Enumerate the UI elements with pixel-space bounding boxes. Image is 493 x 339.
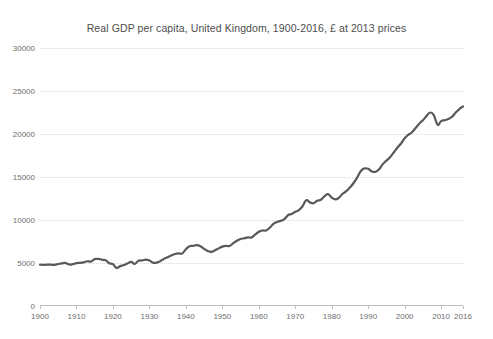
x-tick-label: 1940 (177, 312, 195, 321)
y-tick-label: 20000 (13, 130, 35, 139)
x-tick-mark (222, 306, 223, 309)
x-tick-label: 1910 (68, 312, 86, 321)
x-tick-mark (405, 306, 406, 309)
x-tick-mark (295, 306, 296, 309)
x-tick-mark (441, 306, 442, 309)
chart-title: Real GDP per capita, United Kingdom, 190… (0, 22, 493, 34)
y-tick-label: 30000 (13, 44, 35, 53)
x-tick-label: 1920 (104, 312, 122, 321)
series-path-real-gdp-per-capita (40, 106, 463, 267)
x-tick-label: 1970 (286, 312, 304, 321)
x-tick-mark (463, 306, 464, 309)
x-tick-mark (40, 306, 41, 309)
x-tick-mark (149, 306, 150, 309)
x-tick-mark (113, 306, 114, 309)
x-tick-label: 1900 (31, 312, 49, 321)
x-tick-mark (186, 306, 187, 309)
x-tick-mark (76, 306, 77, 309)
x-tick-label: 2000 (396, 312, 414, 321)
y-tick-label: 10000 (13, 216, 35, 225)
chart-container: Real GDP per capita, United Kingdom, 190… (0, 0, 493, 339)
x-tick-mark (332, 306, 333, 309)
plot-area: 050001000015000200002500030000 190019101… (40, 48, 463, 306)
data-series-line (40, 48, 463, 306)
x-tick-label: 2016 (454, 312, 472, 321)
y-tick-label: 5000 (17, 259, 35, 268)
x-tick-label: 2010 (432, 312, 450, 321)
x-tick-label: 1930 (140, 312, 158, 321)
x-tick-mark (259, 306, 260, 309)
x-tick-label: 1950 (213, 312, 231, 321)
y-tick-label: 15000 (13, 173, 35, 182)
x-tick-mark (368, 306, 369, 309)
y-tick-label: 25000 (13, 87, 35, 96)
x-tick-label: 1990 (359, 312, 377, 321)
x-tick-label: 1960 (250, 312, 268, 321)
y-tick-label: 0 (31, 302, 35, 311)
x-tick-label: 1980 (323, 312, 341, 321)
